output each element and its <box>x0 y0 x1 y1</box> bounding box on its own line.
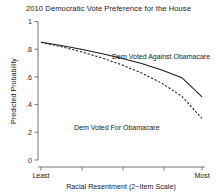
x-tick-label-least: Least <box>32 172 49 179</box>
y-tick-label-06: .6 <box>26 74 32 81</box>
annotation-for-obamacare: Dem Voted For Obamacare <box>74 124 160 131</box>
x-axis-title: Racial Resentment (2−Item Scale) <box>66 182 176 191</box>
x-tick-label-most: Most <box>194 172 209 179</box>
chart-figure: 2010 Democratic Vote Preference for the … <box>0 0 217 193</box>
y-tick-label-02: .2 <box>26 129 32 136</box>
annotation-against-obamacare: Dem Voted Against Obamacare <box>112 53 210 61</box>
y-axis-title: Predicted Probability <box>9 58 18 124</box>
y-tick-label-08: .8 <box>26 46 32 53</box>
y-tick-label-1: 1 <box>28 18 32 25</box>
y-tick-label-04: .4 <box>26 101 32 108</box>
series-line-against-obamacare <box>41 42 202 97</box>
y-tick-label-0: 0 <box>28 157 32 164</box>
chart-plot-area: 0 .2 .4 .6 .8 1 Least Most Racial Resent… <box>0 0 217 193</box>
